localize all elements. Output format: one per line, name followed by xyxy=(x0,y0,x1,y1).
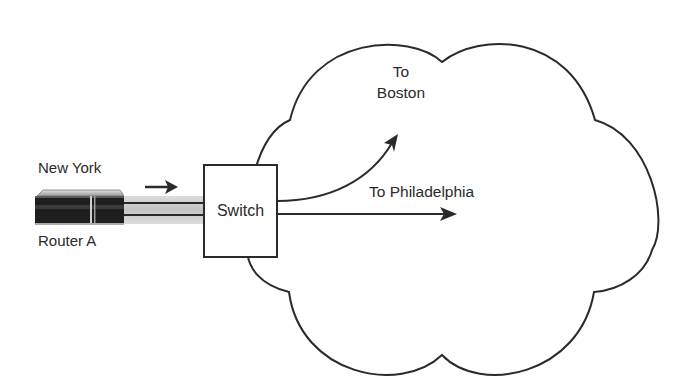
router-icon xyxy=(35,190,124,225)
router-name-label: Router A xyxy=(38,232,96,250)
philadelphia-label: To Philadelphia xyxy=(369,183,474,201)
boston-label-line2: Boston xyxy=(366,82,436,103)
router-site-label: New York xyxy=(38,159,101,177)
network-cloud-icon xyxy=(247,44,659,375)
boston-label-line1: To xyxy=(366,61,436,82)
arrow-right-icon xyxy=(145,180,178,194)
network-diagram xyxy=(0,0,688,392)
router-switch-link xyxy=(123,196,205,224)
boston-label: To Boston xyxy=(366,61,436,103)
switch-label: Switch xyxy=(204,202,277,220)
